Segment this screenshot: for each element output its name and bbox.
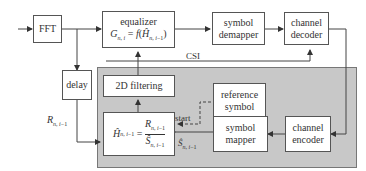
- channel-encoder-block: channel encoder: [285, 116, 331, 152]
- channel-estimator-block: Ĥn, i−1 = Rn, i−1 Ŝn, i−1: [103, 112, 175, 156]
- fft-block: FFT: [33, 15, 62, 43]
- 2d-filtering-block: 2D filtering: [103, 75, 175, 97]
- symbol-mapper-block: symbol mapper: [213, 116, 268, 152]
- delay-block: delay: [62, 70, 92, 100]
- equalizer-block: equalizer Gn, i = f(Ĥn, i−1): [102, 11, 175, 48]
- s-hat-label: Ŝn, i−1: [178, 138, 197, 150]
- reference-symbol-block: reference symbol: [213, 83, 266, 119]
- channel-decoder-block: channel decoder: [284, 12, 329, 45]
- symbol-demapper-block: symbol demapper: [212, 12, 265, 45]
- csi-label: CSI: [186, 51, 200, 61]
- r-input-label: Rn, i−1: [47, 114, 67, 127]
- start-label: start: [175, 113, 191, 123]
- equalizer-formula: Gn, i = f(Ĥn, i−1): [110, 28, 166, 44]
- estimator-formula: Ĥn, i−1 = Rn, i−1 Ŝn, i−1: [113, 118, 165, 151]
